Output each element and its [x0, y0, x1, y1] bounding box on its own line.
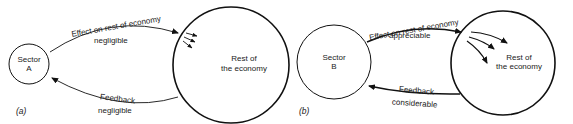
spillover-arrow-a2 [184, 37, 195, 42]
panel-b: Sector B Rest of the economy Effect on r… [297, 11, 555, 116]
feedback-title-a: Feedback [100, 92, 137, 105]
rest-of-economy-a-line1: Rest of [231, 54, 257, 63]
rest-of-economy-b-line2: the economy [496, 62, 542, 71]
sector-feedback-diagram: Sector A Rest of the economy Effect on r… [0, 0, 573, 124]
spillover-arrow-a1 [186, 33, 197, 36]
spillover-arrow-b2 [469, 37, 494, 49]
panel-a: Sector A Rest of the economy Effect on r… [9, 7, 289, 123]
feedback-magnitude-a: negligible [98, 106, 132, 115]
sector-b-label-line2: B [331, 62, 336, 71]
rest-of-economy-a-line2: the economy [221, 64, 267, 73]
feedback-magnitude-b: considerable [392, 97, 438, 109]
feedback-title-b: Feedback [399, 85, 436, 97]
spillover-arrow-b3 [467, 41, 487, 63]
rest-of-economy-b-line1: Rest of [506, 53, 532, 62]
sector-a-label-line2: A [26, 64, 32, 73]
spillover-arrow-a3 [183, 41, 192, 48]
effect-magnitude-a: negligible [94, 36, 128, 45]
panel-label-a: (a) [16, 106, 27, 116]
spillover-arrow-b1 [471, 32, 507, 43]
sector-a-label-line1: Sector [17, 55, 40, 64]
sector-b-label-line1: Sector [322, 53, 345, 62]
effect-magnitude-b: appreciable [389, 31, 431, 40]
panel-label-b: (b) [299, 106, 310, 116]
